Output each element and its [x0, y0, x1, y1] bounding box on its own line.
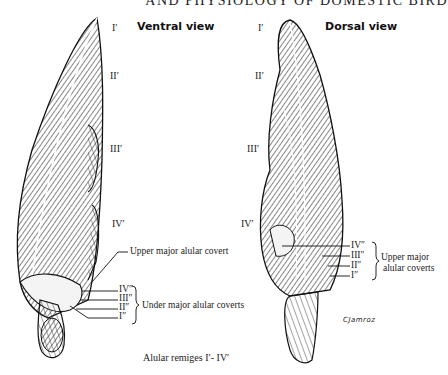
figure-caption: Alular remiges I′- IV′ [143, 352, 229, 363]
dorsal-covert-1: I″ [351, 270, 358, 280]
upper-major-alular-coverts-label-1: Upper major [381, 252, 429, 262]
under-major-alular-coverts-label: Under major alular coverts [142, 300, 244, 310]
ventral-remex-4: IV′ [112, 218, 125, 229]
ventral-remex-3: III′ [110, 143, 122, 154]
ventral-wing-drawing [17, 18, 102, 358]
dorsal-remex-3: III′ [247, 143, 259, 154]
dorsal-covert-4: IV″ [351, 240, 365, 250]
dorsal-wing-drawing [260, 20, 342, 363]
dorsal-view-title: Dorsal view [325, 20, 397, 33]
artist-signature: CJamroz [343, 316, 375, 324]
upper-major-alular-covert-label: Upper major alular covert [130, 246, 228, 256]
dorsal-remex-1: I′ [258, 22, 264, 33]
dorsal-remex-4: IV′ [241, 218, 254, 229]
ventral-view-title: Ventral view [137, 20, 214, 33]
wing-illustrations [0, 0, 448, 375]
ventral-remex-2: II′ [110, 70, 119, 81]
ventral-covert-1: I″ [119, 311, 126, 321]
ventral-remex-1: I′ [112, 22, 118, 33]
dorsal-covert-2: II″ [351, 260, 361, 270]
dorsal-remex-2: II′ [255, 70, 264, 81]
dorsal-covert-3: III″ [351, 250, 364, 260]
upper-major-alular-coverts-label-2: alular coverts [383, 263, 434, 273]
